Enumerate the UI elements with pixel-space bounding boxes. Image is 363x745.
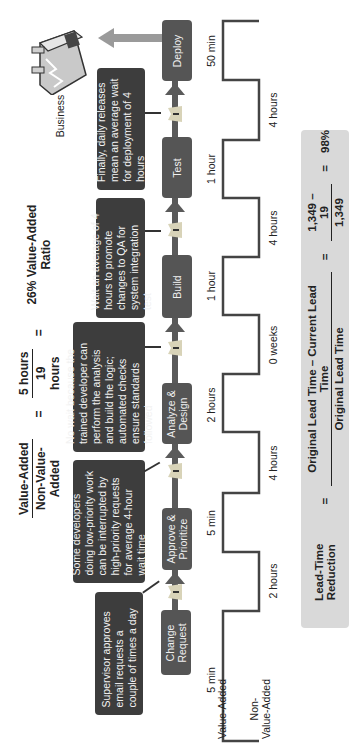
step-label-line2: Request (176, 623, 188, 662)
ratio-result: 26% Value-Added Ratio (25, 190, 53, 319)
callout-leader (144, 462, 161, 473)
lead-time-expr-fraction: Original Lead Time – Current Lead Time O… (306, 272, 345, 486)
va-time-text: 50 min (205, 35, 217, 67)
lead-time-label: Lead-Time Reduction (313, 516, 337, 628)
process-step-test: Test (162, 137, 192, 198)
va-time-label: 1 hour (203, 146, 219, 192)
callout-text: Supervisor approves email requests a cou… (100, 600, 139, 707)
step-label-line1: Approve & (165, 514, 177, 563)
step-label-line2: Prioritize (177, 519, 189, 560)
callout-leader (145, 112, 161, 114)
nva-time-label: 4 hours (265, 85, 281, 135)
inventory-triangle-icon (168, 340, 182, 356)
arrowhead-icon (165, 318, 185, 330)
level-label-text: Value-Added (260, 679, 272, 739)
inventory-triangle-icon (168, 584, 182, 600)
callout-test: Wait an average of 4 hours to promote ch… (96, 198, 145, 318)
equals-sign: = (319, 253, 331, 260)
denominator-label: Non-Value-Added (33, 427, 62, 530)
nva-time-text: 4 hours (267, 210, 279, 245)
callout-text: No wait because the trained developer ca… (64, 330, 155, 444)
step-label-line1: Change (164, 624, 176, 661)
denominator-value: 19 hours (33, 346, 62, 400)
va-time-text: 2 hours (205, 387, 217, 422)
va-time-label: 1 hour (203, 263, 219, 309)
customer-label: Business (52, 96, 68, 136)
customer-label-text: Business (54, 95, 66, 138)
nva-time-label: 4 hours (265, 438, 281, 488)
non-value-added-level-label: Non- Value-Added (245, 676, 275, 742)
arrowhead-icon (165, 81, 185, 93)
callout-leader (145, 230, 161, 232)
process-step-analyze-design: Analyze & Design (162, 383, 192, 444)
value-added-ratio-formula: Value-Added Non-Value-Added = 5 hours 19… (18, 190, 60, 530)
va-time-text: 1 hour (205, 271, 217, 301)
arrowhead-icon (165, 198, 185, 210)
step-label: Test (171, 158, 183, 177)
numerator-value: 5 hours (17, 349, 33, 398)
va-time-text: 5 min (205, 510, 217, 536)
equals-sign: = (319, 165, 331, 172)
numerator-value: 1,349 – 19 (306, 184, 332, 242)
nva-time-text: 4 hours (267, 445, 279, 480)
va-time-label: 2 hours (203, 382, 219, 428)
inventory-triangle-icon (168, 463, 182, 479)
ratio-label-fraction: Value-Added Non-Value-Added (17, 427, 62, 530)
level-label-text: Non- (248, 698, 260, 721)
equals-sign: = (319, 498, 331, 505)
step-label: Deploy (171, 34, 183, 67)
denominator-value: 1,349 (332, 195, 345, 230)
process-step-change-request: Change Request (161, 610, 191, 675)
callout-approve: Some developers doing low-priority work … (73, 460, 145, 583)
equals-sign: = (32, 410, 46, 417)
step-label: Build (171, 275, 183, 298)
callout-text: Some developers doing low-priority work … (70, 468, 148, 575)
step-label-line1: Analyze & (165, 390, 177, 437)
callout-deploy: Finally, daily releases mean an average … (97, 68, 145, 190)
va-time-label: 50 min (203, 28, 219, 74)
lead-time-result: 98% (319, 130, 331, 153)
inventory-triangle-icon (168, 222, 182, 238)
callout-text: Finally, daily releases mean an average … (95, 76, 147, 182)
ratio-value-fraction: 5 hours 19 hours (17, 346, 62, 400)
arrowhead-icon (165, 570, 185, 582)
inventory-triangle-icon (168, 106, 182, 122)
value-added-level-label: Value-Added (213, 676, 231, 742)
denominator-expr: Original Lead Time (332, 324, 345, 433)
nva-time-text: 2 hours (267, 563, 279, 598)
va-time-text: 1 hour (205, 154, 217, 184)
lead-time-reduction-formula: Lead-Time Reduction = Original Lead Time… (301, 130, 349, 628)
nva-time-label: 4 hours (265, 203, 281, 253)
equals-sign: = (32, 329, 46, 336)
level-label-text: Value-Added (216, 679, 228, 739)
numerator-expr: Original Lead Time – Current Lead Time (306, 272, 332, 486)
callout-change-request: Supervisor approves email requests a cou… (95, 592, 143, 715)
process-step-build: Build (162, 255, 192, 318)
nva-time-label: 0 weeks (265, 320, 281, 370)
nva-time-label: 2 hours (265, 556, 281, 606)
customer-arrow-icon (98, 28, 162, 48)
lead-time-value-fraction: 1,349 – 19 1,349 (306, 184, 345, 242)
nva-time-text: 4 hours (267, 92, 279, 127)
callout-text: Wait an average of 4 hours to promote ch… (88, 206, 153, 310)
callout-analyze: No wait because the trained developer ca… (73, 322, 145, 452)
process-step-approve-prioritize: Approve & Prioritize (162, 508, 192, 570)
process-step-deploy: Deploy (162, 20, 192, 81)
nva-time-text: 0 weeks (267, 326, 279, 365)
callout-leader (145, 346, 161, 348)
numerator-label: Value-Added (17, 439, 33, 518)
step-label-line2: Design (177, 397, 189, 430)
arrowhead-icon (165, 444, 185, 456)
factory-icon (30, 15, 88, 95)
va-time-label: 5 min (203, 500, 219, 546)
